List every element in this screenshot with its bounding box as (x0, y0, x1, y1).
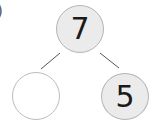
whole-circle: 7 (56, 5, 104, 53)
whole-value: 7 (70, 14, 89, 44)
connector-left (41, 53, 60, 69)
part-right-value: 5 (115, 82, 134, 112)
part-circle-left-blank[interactable] (12, 72, 60, 120)
part-circle-right: 5 (101, 73, 149, 120)
connector-right (100, 53, 119, 68)
